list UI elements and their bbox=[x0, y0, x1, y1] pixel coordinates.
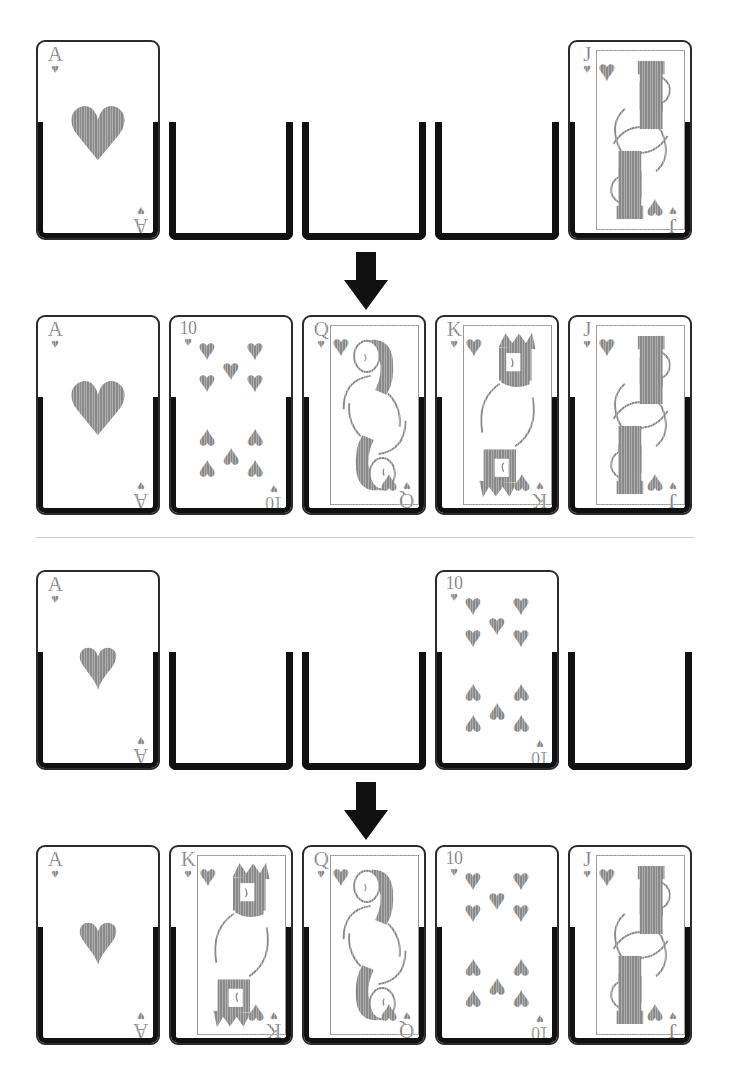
playing-card-queen[interactable]: Q♥Q♥ ♥♥ bbox=[302, 845, 426, 1045]
heart-pip: ♥ bbox=[646, 194, 664, 224]
heart-pip: ♥ bbox=[464, 622, 482, 652]
playing-card-king[interactable]: K♥K♥ ♥♥ bbox=[435, 315, 559, 515]
card-index-top-left: A♥ bbox=[42, 850, 68, 880]
heart-pip: ♥ bbox=[246, 335, 264, 365]
panel-1-after-row: A♥A♥♥10♥10♥♥♥♥♥♥♥♥♥♥♥Q♥Q♥ ♥♥K♥K♥ bbox=[36, 315, 700, 515]
card-slot-4[interactable]: K♥K♥ ♥♥ bbox=[435, 315, 559, 515]
playing-card-jack[interactable]: J♥J♥ ♥♥ bbox=[568, 845, 692, 1045]
empty-slot-bracket[interactable] bbox=[568, 652, 692, 770]
card-slot-2[interactable]: K♥K♥ ♥♥ bbox=[169, 845, 293, 1045]
heart-pip: ♥ bbox=[598, 56, 616, 86]
heart-icon: ♥ bbox=[42, 63, 68, 75]
empty-slot-bracket[interactable] bbox=[302, 652, 426, 770]
heart-icon: ♥ bbox=[175, 336, 201, 348]
playing-card-jack[interactable]: J♥J♥ ♥♥ bbox=[568, 315, 692, 515]
heart-pip: ♥ bbox=[512, 590, 530, 620]
heart-pip: ♥ bbox=[247, 999, 265, 1029]
heart-pip: ♥ bbox=[488, 610, 506, 640]
heart-pip: ♥ bbox=[464, 954, 482, 984]
card-slot-4[interactable]: 10♥10♥♥♥♥♥♥♥♥♥♥♥ bbox=[435, 570, 559, 770]
card-slot-2[interactable]: 10♥10♥♥♥♥♥♥♥♥♥♥♥ bbox=[169, 315, 293, 515]
heart-icon: ♥ bbox=[128, 480, 154, 492]
panel-2-before-row: A♥A♥♥10♥10♥♥♥♥♥♥♥♥♥♥♥ bbox=[36, 570, 700, 770]
playing-card-ace[interactable]: A♥A♥♥ bbox=[36, 845, 160, 1045]
heart-pip: ♥ bbox=[198, 455, 216, 485]
heart-icon: ♥ bbox=[42, 338, 68, 350]
heart-pip: ♥ bbox=[199, 861, 217, 891]
heart-icon: ♥ bbox=[441, 866, 467, 878]
heart-pip: ♥ bbox=[246, 455, 264, 485]
empty-slot-bracket[interactable] bbox=[435, 122, 559, 240]
playing-card-ten[interactable]: 10♥10♥♥♥♥♥♥♥♥♥♥♥ bbox=[169, 315, 293, 515]
card-slot-4[interactable]: 10♥10♥♥♥♥♥♥♥♥♥♥♥ bbox=[435, 845, 559, 1045]
card-slot-2[interactable] bbox=[169, 570, 293, 770]
heart-pip: ♥ bbox=[332, 861, 350, 891]
playing-card-ace[interactable]: A♥A♥♥ bbox=[36, 570, 160, 770]
heart-pip: ♥ bbox=[246, 424, 264, 454]
card-slot-1[interactable]: A♥A♥♥ bbox=[36, 315, 160, 515]
heart-pip: ♥ bbox=[465, 331, 483, 361]
heart-pip: ♥ bbox=[512, 679, 530, 709]
card-slot-5[interactable]: J♥J♥ ♥♥ bbox=[568, 845, 692, 1045]
card-index-top-left: 10♥ bbox=[441, 850, 467, 878]
card-index-top-left: A♥ bbox=[42, 320, 68, 350]
heart-icon: ♥ bbox=[42, 593, 68, 605]
empty-slot-bracket[interactable] bbox=[169, 122, 293, 240]
playing-card-ten[interactable]: 10♥10♥♥♥♥♥♥♥♥♥♥♥ bbox=[435, 570, 559, 770]
empty-slot-bracket[interactable] bbox=[302, 122, 426, 240]
card-slot-4[interactable] bbox=[435, 40, 559, 240]
heart-pip: ♥ bbox=[76, 902, 120, 976]
playing-card-queen[interactable]: Q♥Q♥ ♥♥ bbox=[302, 315, 426, 515]
heart-pip: ♥ bbox=[488, 885, 506, 915]
card-slot-1[interactable]: A♥A♥♥ bbox=[36, 845, 160, 1045]
card-index-top-left: 10♥ bbox=[441, 575, 467, 603]
heart-icon: ♥ bbox=[441, 591, 467, 603]
heart-pip: ♥ bbox=[246, 367, 264, 397]
arrow-shaft bbox=[356, 782, 376, 812]
card-index-bottom-right: 10♥ bbox=[527, 738, 553, 766]
heart-icon: ♥ bbox=[128, 1010, 154, 1022]
heart-pip: ♥ bbox=[512, 865, 530, 895]
card-slot-1[interactable]: A♥A♥♥ bbox=[36, 570, 160, 770]
card-slot-3[interactable] bbox=[302, 570, 426, 770]
heart-icon: ♥ bbox=[42, 868, 68, 880]
card-index-top-left: 10♥ bbox=[175, 320, 201, 348]
heart-pip: ♥ bbox=[513, 469, 531, 499]
card-slot-3[interactable]: Q♥Q♥ ♥♥ bbox=[302, 845, 426, 1045]
card-index-bottom-right: A♥ bbox=[128, 480, 154, 510]
playing-card-king[interactable]: K♥K♥ ♥♥ bbox=[169, 845, 293, 1045]
panel-1-before-row: A♥A♥♥J♥J♥ ♥♥ bbox=[36, 40, 700, 240]
heart-pip: ♥ bbox=[646, 999, 664, 1029]
card-slot-3[interactable]: Q♥Q♥ ♥♥ bbox=[302, 315, 426, 515]
heart-pip: ♥ bbox=[76, 627, 120, 701]
heart-pip: ♥ bbox=[198, 424, 216, 454]
playing-card-jack[interactable]: J♥J♥ ♥♥ bbox=[568, 40, 692, 240]
card-index-bottom-right: A♥ bbox=[128, 735, 154, 765]
heart-pip: ♥ bbox=[512, 622, 530, 652]
card-slot-5[interactable]: J♥J♥ ♥♥ bbox=[568, 315, 692, 515]
card-slot-5[interactable]: J♥J♥ ♥♥ bbox=[568, 40, 692, 240]
arrow-shaft bbox=[356, 252, 376, 282]
heart-pip: ♥ bbox=[488, 698, 506, 728]
heart-pip: ♥ bbox=[222, 443, 240, 473]
card-slot-2[interactable] bbox=[169, 40, 293, 240]
playing-card-ten[interactable]: 10♥10♥♥♥♥♥♥♥♥♥♥♥ bbox=[435, 845, 559, 1045]
card-index-bottom-right: A♥ bbox=[128, 205, 154, 235]
heart-icon: ♥ bbox=[128, 735, 154, 747]
heart-pip: ♥ bbox=[598, 331, 616, 361]
card-slot-3[interactable] bbox=[302, 40, 426, 240]
heart-pip: ♥ bbox=[598, 861, 616, 891]
card-slot-5[interactable] bbox=[568, 570, 692, 770]
card-index-top-left: A♥ bbox=[42, 45, 68, 75]
card-slot-1[interactable]: A♥A♥♥ bbox=[36, 40, 160, 240]
heart-pip: ♥ bbox=[512, 710, 530, 740]
empty-slot-bracket[interactable] bbox=[169, 652, 293, 770]
heart-pip: ♥ bbox=[65, 97, 131, 171]
heart-pip: ♥ bbox=[512, 985, 530, 1015]
playing-card-ace[interactable]: A♥A♥♥ bbox=[36, 315, 160, 515]
playing-card-ace[interactable]: A♥A♥♥ bbox=[36, 40, 160, 240]
panel-2-after-row: A♥A♥♥K♥K♥ ♥♥Q♥Q♥ bbox=[36, 845, 700, 1045]
heart-pip: ♥ bbox=[646, 469, 664, 499]
card-index-bottom-right: 10♥ bbox=[527, 1013, 553, 1041]
heart-pip: ♥ bbox=[512, 954, 530, 984]
